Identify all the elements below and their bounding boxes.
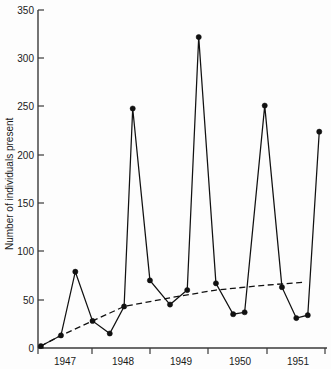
y-tick-label: 100 bbox=[17, 246, 34, 257]
line-chart-plot: 350 300 250 200 150 100 50 0 1947 1948 1… bbox=[0, 0, 331, 369]
data-point-marker bbox=[305, 313, 310, 318]
chart-figure: 350 300 250 200 150 100 50 0 1947 1948 1… bbox=[0, 0, 331, 369]
trend-line bbox=[41, 282, 302, 346]
data-marker-layer bbox=[38, 34, 322, 348]
data-point-marker bbox=[38, 343, 43, 348]
data-point-marker bbox=[196, 34, 201, 39]
y-tick-label: 300 bbox=[17, 53, 34, 64]
data-point-marker bbox=[167, 302, 172, 307]
x-tick-label: 1949 bbox=[170, 356, 193, 367]
data-point-marker bbox=[58, 333, 63, 338]
data-point-marker bbox=[213, 281, 218, 286]
data-point-marker bbox=[130, 106, 135, 111]
data-series-layer bbox=[41, 37, 319, 346]
y-tick-label: 50 bbox=[23, 295, 35, 306]
data-point-marker bbox=[90, 318, 95, 323]
x-tick-label: 1951 bbox=[287, 356, 310, 367]
population-line bbox=[41, 37, 319, 346]
data-point-marker bbox=[231, 312, 236, 317]
data-point-marker bbox=[73, 269, 78, 274]
x-tick-label: 1948 bbox=[112, 356, 135, 367]
x-tick-label: 1950 bbox=[229, 356, 252, 367]
y-axis-ticks bbox=[38, 10, 44, 348]
x-tick-label: 1947 bbox=[54, 356, 77, 367]
data-point-marker bbox=[262, 103, 267, 108]
data-point-marker bbox=[242, 310, 247, 315]
y-tick-label: 150 bbox=[17, 198, 34, 209]
data-point-marker bbox=[147, 278, 152, 283]
data-point-marker bbox=[185, 287, 190, 292]
y-tick-label: 0 bbox=[28, 343, 34, 354]
data-point-marker bbox=[317, 129, 322, 134]
y-axis-tick-labels: 350 300 250 200 150 100 50 0 bbox=[17, 5, 34, 354]
data-point-marker bbox=[122, 304, 127, 309]
data-point-marker bbox=[294, 315, 299, 320]
y-tick-label: 350 bbox=[17, 5, 34, 16]
x-axis-tick-labels: 1947 1948 1949 1950 1951 bbox=[54, 356, 310, 367]
y-tick-label: 200 bbox=[17, 150, 34, 161]
x-axis-ticks bbox=[38, 348, 325, 354]
data-point-marker bbox=[107, 331, 112, 336]
y-tick-label: 250 bbox=[17, 101, 34, 112]
data-point-marker bbox=[279, 285, 284, 290]
y-axis-title: Number of individuals present bbox=[4, 117, 15, 250]
